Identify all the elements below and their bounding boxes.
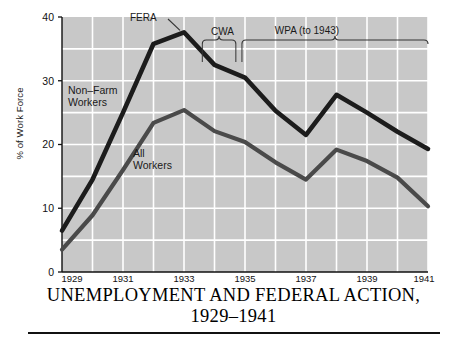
series-label-non-farm: Non–Farm Workers: [68, 84, 118, 109]
annotation-label-cwa: CWA: [211, 27, 234, 37]
x-tick-label: 1941: [413, 274, 434, 284]
x-tick-label: 1937: [295, 274, 316, 284]
y-tick-label: 20: [28, 139, 54, 150]
caption-line-1: UNEMPLOYMENT AND FEDERAL ACTION,: [0, 286, 467, 306]
horizontal-rule: [28, 332, 440, 334]
annotation-label-wpa: WPA (to 1943): [275, 26, 339, 36]
x-tick-label: 1931: [112, 274, 133, 284]
chart-figure: % of Work Force 0 10 20 30 40: [0, 0, 467, 341]
x-tick-label: 1929: [61, 274, 82, 284]
x-tick-label: 1939: [356, 274, 377, 284]
series-label-all-workers: All Workers: [133, 147, 172, 172]
x-tick-label: 1935: [234, 274, 255, 284]
x-tick-label: 1933: [173, 274, 194, 284]
caption-line-2: 1929–1941: [0, 306, 467, 327]
plot-area-wrapper: % of Work Force 0 10 20 30 40: [0, 0, 467, 285]
y-tick-label: 40: [28, 12, 54, 23]
y-tick-label: 30: [28, 76, 54, 87]
chart-svg: [0, 0, 467, 285]
y-tick-label: 10: [28, 203, 54, 214]
figure-caption: UNEMPLOYMENT AND FEDERAL ACTION, 1929–19…: [0, 286, 467, 327]
annotation-label-fera: FERA: [130, 13, 157, 23]
y-tick-labels: 0 10 20 30 40: [0, 0, 62, 285]
